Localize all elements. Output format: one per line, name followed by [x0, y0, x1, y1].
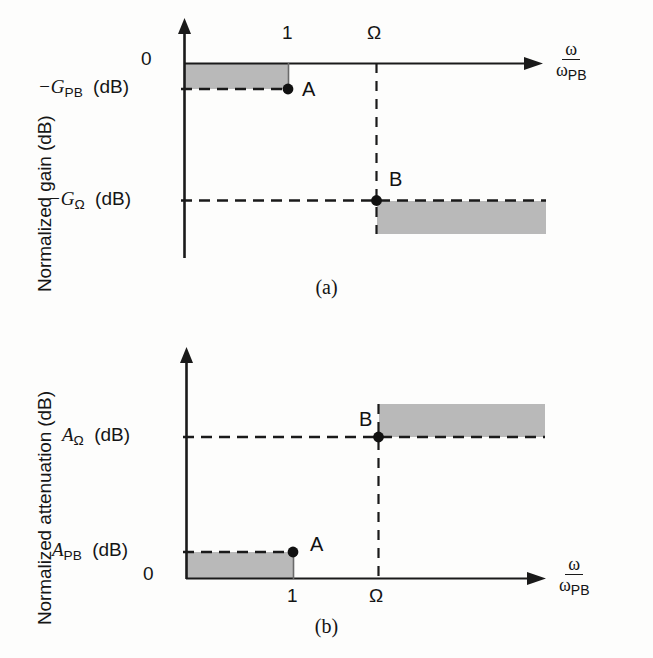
- panel-b-normalized-attenuation: Normalized attenuation (dB) 0 AΩ (dB) AP…: [0, 330, 653, 658]
- panel-a-point-b-label: B: [389, 168, 402, 191]
- panel-a-normalized-gain: Normalized gain (dB) 0 −GPB (dB) −GΩ (dB…: [0, 0, 653, 330]
- panel-a-passband-shading: [185, 64, 288, 89]
- panel-b-x-axis-title: ω ωPB: [559, 555, 590, 598]
- panel-a-x-axis-denominator: ωPB: [556, 60, 587, 83]
- panel-a-point-b-marker: [371, 195, 382, 206]
- panel-a-x-axis-numerator: ω: [562, 40, 580, 60]
- panel-b-ytick-aomega-symbol: A: [62, 424, 74, 445]
- panel-a-caption: (a): [0, 276, 653, 299]
- panel-b-y-axis-title: Normalized attenuation (dB): [34, 391, 56, 625]
- panel-b-xtick-one: 1: [287, 585, 298, 607]
- panel-b-caption: (b): [0, 615, 653, 638]
- panel-a-ytick-zero: 0: [141, 48, 152, 70]
- panel-a-ytick-gomega-unit: (dB): [95, 188, 131, 209]
- panel-b-ytick-apb-unit: (dB): [92, 539, 128, 560]
- panel-b-ytick-aomega-unit: (dB): [94, 424, 130, 445]
- panel-b-x-axis-denominator-symbol: ω: [559, 575, 571, 595]
- panel-b-x-axis-arrowhead: [527, 572, 546, 585]
- panel-a-point-a-marker: [283, 84, 294, 95]
- panel-a-ytick-gpb-symbol: −G: [38, 76, 65, 97]
- panel-a-x-axis-denominator-subscript: PB: [568, 68, 587, 84]
- panel-b-xtick-omega: Ω: [369, 585, 383, 607]
- panel-b-ytick-zero: 0: [143, 563, 154, 585]
- panel-b-x-axis-numerator: ω: [565, 555, 583, 575]
- panel-a-ytick-gpb: −GPB (dB): [38, 76, 129, 100]
- panel-a-xtick-omega: Ω: [367, 22, 381, 44]
- panel-b-x-axis-denominator: ωPB: [559, 575, 590, 598]
- panel-a-ytick-gpb-subscript: PB: [65, 85, 83, 100]
- panel-a-xtick-one: 1: [282, 22, 293, 44]
- panel-a-x-axis-denominator-symbol: ω: [556, 60, 568, 80]
- panel-a-x-axis-title: ω ωPB: [556, 40, 587, 83]
- panel-b-y-axis-arrowhead: [180, 347, 193, 363]
- panel-a-stopband-shading: [377, 201, 546, 234]
- panel-b-ytick-apb: APB (dB): [52, 539, 128, 563]
- panel-b-point-b-marker: [373, 432, 384, 443]
- panel-b-ytick-aomega-subscript: Ω: [74, 433, 84, 448]
- panel-b-ytick-aomega: AΩ (dB): [62, 424, 130, 448]
- panel-b-plot-graphics: [0, 330, 653, 658]
- panel-a-ytick-gomega-symbol: −G: [48, 188, 75, 209]
- filter-specification-figure: Normalized gain (dB) 0 −GPB (dB) −GΩ (dB…: [0, 0, 653, 658]
- panel-b-passband-shading: [187, 552, 293, 578]
- panel-a-y-axis-arrowhead: [178, 18, 191, 34]
- panel-b-point-a-label: A: [310, 533, 323, 556]
- panel-a-x-axis-arrowhead: [524, 57, 543, 70]
- panel-a-point-a-label: A: [302, 78, 315, 101]
- panel-b-point-a-marker: [288, 547, 299, 558]
- panel-b-stopband-shading: [379, 404, 545, 437]
- panel-b-ytick-apb-symbol: A: [52, 539, 64, 560]
- panel-b-ytick-apb-subscript: PB: [64, 548, 82, 563]
- panel-a-ytick-gomega-subscript: Ω: [75, 197, 85, 212]
- panel-a-ytick-gpb-unit: (dB): [93, 76, 129, 97]
- panel-a-ytick-gomega: −GΩ (dB): [48, 188, 131, 212]
- panel-b-x-axis-denominator-subscript: PB: [571, 583, 590, 599]
- panel-b-point-b-label: B: [359, 408, 372, 431]
